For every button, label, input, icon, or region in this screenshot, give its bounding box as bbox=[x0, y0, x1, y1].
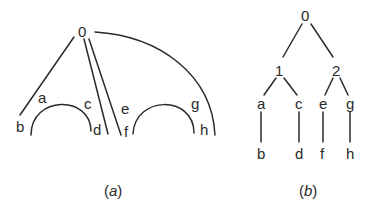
figure-a: 0 a b c d e f g h (a) bbox=[16, 23, 215, 199]
node-0: 0 bbox=[78, 23, 86, 40]
caption-a: (a) bbox=[104, 182, 122, 199]
node-a: a bbox=[38, 89, 47, 106]
edge-1-a bbox=[264, 78, 276, 95]
arc-e-g bbox=[133, 105, 194, 134]
figure-b: 0 1 2 a c e g b d f h (b) bbox=[257, 7, 354, 199]
edge-0-2 bbox=[311, 24, 333, 57]
tree-node-c: c bbox=[295, 95, 303, 112]
edge-2-g bbox=[340, 78, 348, 95]
node-e: e bbox=[121, 100, 129, 117]
arc-a-c bbox=[31, 104, 91, 135]
edge-1-c bbox=[284, 78, 297, 95]
tree-node-b: b bbox=[257, 145, 265, 162]
tree-node-2: 2 bbox=[332, 62, 340, 79]
caption-b: (b) bbox=[299, 182, 317, 199]
node-b: b bbox=[16, 118, 24, 135]
node-h: h bbox=[200, 121, 208, 138]
tree-node-0: 0 bbox=[301, 7, 309, 24]
tree-node-h: h bbox=[346, 145, 354, 162]
tree-node-1: 1 bbox=[275, 62, 283, 79]
edge-2-e bbox=[325, 78, 333, 95]
edge-0-1 bbox=[283, 24, 302, 57]
tree-node-e: e bbox=[319, 95, 327, 112]
node-f: f bbox=[124, 123, 129, 140]
tree-node-f: f bbox=[320, 145, 325, 162]
figure-canvas: 0 a b c d e f g h (a) 0 1 2 a c e g b d … bbox=[0, 0, 370, 205]
node-c: c bbox=[84, 95, 92, 112]
tree-node-d: d bbox=[295, 145, 303, 162]
edge-root-b bbox=[20, 37, 74, 115]
node-g: g bbox=[191, 95, 199, 112]
node-d: d bbox=[93, 121, 101, 138]
arc-root-h bbox=[95, 32, 215, 135]
tree-node-g: g bbox=[346, 95, 354, 112]
tree-node-a: a bbox=[257, 95, 266, 112]
